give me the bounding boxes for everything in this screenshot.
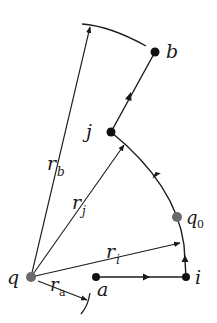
rb-arc bbox=[82, 24, 146, 46]
label-b: b bbox=[166, 40, 178, 62]
diagram-canvas: q q 0 a i j b r b r j r i r a bbox=[0, 0, 217, 323]
label-q: q bbox=[7, 266, 19, 288]
ra-arc bbox=[81, 293, 90, 314]
label-i: i bbox=[195, 266, 201, 288]
path-i-j-arc bbox=[111, 132, 186, 277]
path-diagram: q q 0 a i j b r b r j r i r a bbox=[0, 0, 217, 323]
point-j bbox=[107, 128, 116, 137]
arrow-icon bbox=[182, 255, 189, 262]
path-j-b bbox=[111, 52, 155, 132]
arrow-icon bbox=[143, 274, 150, 281]
arrow-icon bbox=[125, 92, 132, 101]
label-ri-sub: i bbox=[116, 253, 120, 267]
label-ra-sub: a bbox=[59, 286, 66, 299]
label-q0: q bbox=[186, 207, 198, 228]
label-q0-sub: 0 bbox=[197, 218, 204, 231]
point-i bbox=[182, 273, 190, 281]
label-rb-sub: b bbox=[57, 165, 65, 179]
point-b bbox=[151, 48, 160, 57]
point-q0 bbox=[172, 212, 182, 222]
point-q bbox=[26, 272, 36, 282]
label-j: j bbox=[82, 120, 92, 142]
label-a: a bbox=[97, 278, 108, 300]
rb-vector bbox=[31, 27, 90, 277]
